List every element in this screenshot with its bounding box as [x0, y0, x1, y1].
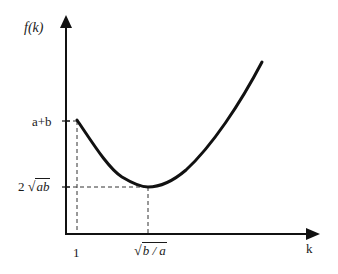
function-curve — [77, 62, 262, 187]
guide-lines — [66, 121, 148, 233]
x-tick-label-1: 1 — [73, 246, 80, 259]
x-axis-label: k — [306, 242, 313, 255]
y-tick-label-apb: a+b — [32, 115, 52, 128]
y-tick-min-radicand: ab — [35, 178, 50, 194]
x-tick-min-radicand: b / a — [142, 242, 167, 258]
y-axis-arrowhead-icon — [60, 15, 72, 28]
sqrt-symbol: √b / a — [134, 244, 167, 258]
sqrt-symbol: √ab — [28, 180, 51, 194]
diagram-canvas — [0, 0, 338, 274]
x-tick-label-min: √b / a — [134, 244, 167, 258]
y-tick-label-min: 2 √ab — [18, 180, 50, 194]
x-axis-arrowhead-icon — [306, 228, 320, 240]
axes — [60, 15, 320, 240]
y-tick-min-coefficient: 2 — [18, 179, 25, 194]
y-axis-label: f(k) — [24, 21, 43, 35]
